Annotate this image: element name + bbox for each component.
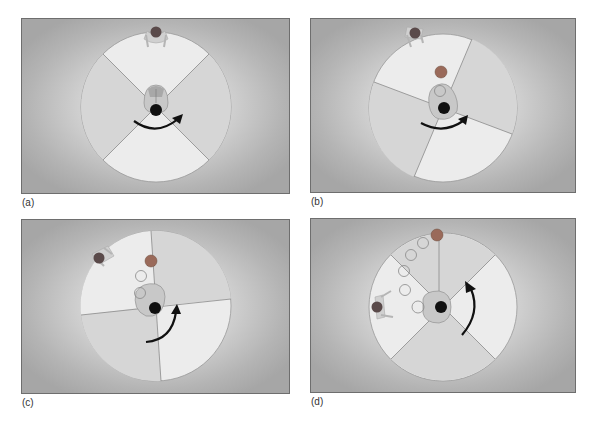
panel-b [310, 18, 576, 193]
panel-label-d: (d) [311, 396, 323, 407]
panel-a [21, 18, 290, 194]
head-icon [435, 301, 447, 313]
head-icon [149, 302, 161, 314]
rotating-platform-diagram-c [22, 220, 290, 394]
ball-icon [435, 66, 447, 78]
ball-icon [431, 229, 443, 241]
center-person-icon [135, 284, 166, 317]
rotating-platform-diagram-d [311, 219, 576, 393]
head-icon [438, 102, 450, 114]
ball-icon [145, 255, 157, 267]
head-icon [150, 104, 162, 116]
panel-d [310, 218, 576, 393]
rotating-platform-diagram-a [22, 19, 290, 194]
panel-label-b: (b) [311, 196, 323, 207]
rotating-platform-diagram-b [311, 19, 576, 193]
panel-label-c: (c) [22, 397, 34, 408]
panel-label-a: (a) [22, 197, 34, 208]
panel-c [21, 219, 290, 394]
